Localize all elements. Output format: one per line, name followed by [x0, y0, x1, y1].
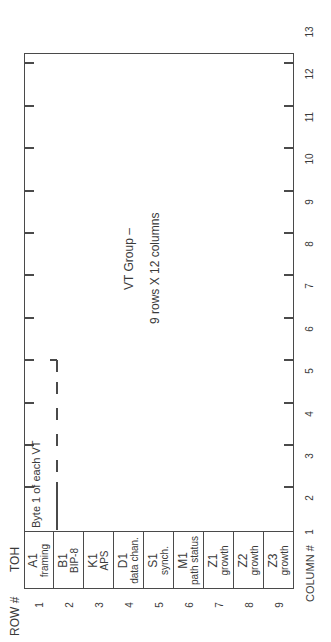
tick-mark	[24, 106, 34, 108]
bracket-dash	[56, 408, 58, 420]
column-number: 11	[304, 107, 315, 127]
tick-mark	[284, 191, 294, 193]
row-number: 3	[94, 598, 105, 612]
toh-cell-z1: Z1 growth	[204, 532, 234, 589]
column-header: COLUMN #	[304, 545, 316, 602]
row-number: 7	[214, 598, 225, 612]
toh-code: S1	[147, 532, 159, 589]
tick-mark	[284, 63, 294, 65]
column-number: 9	[304, 192, 315, 212]
tick-mark	[24, 403, 34, 405]
tick-mark	[284, 106, 294, 108]
bracket-dash	[56, 360, 58, 372]
column-number: 7	[304, 276, 315, 296]
column-number: 5	[304, 361, 315, 381]
toh-desc: data chan.	[130, 532, 140, 589]
tick-mark	[24, 233, 34, 235]
row-number: 6	[184, 598, 195, 612]
row-header: ROW #	[8, 597, 22, 636]
toh-desc: growth	[280, 532, 290, 589]
toh-desc: BIP-8	[70, 532, 80, 589]
tick-mark	[24, 191, 34, 193]
bracket-end	[50, 360, 57, 362]
tick-mark	[24, 360, 34, 362]
toh-desc: growth	[250, 532, 260, 589]
toh-header: TOH	[8, 547, 22, 572]
toh-code: K1	[87, 532, 99, 589]
tick-mark	[284, 318, 294, 320]
toh-code: Z3	[267, 532, 279, 589]
row-number: 4	[124, 598, 135, 612]
toh-cell-a1: A1 framing	[24, 532, 54, 589]
column-number: 2	[304, 488, 315, 508]
vt-group-diagram: ROW # TOH 1 2 3 4 5 6 7 8 9 A1 framing B…	[0, 0, 331, 642]
vt-group-subtitle: 9 rows X 12 columns	[148, 213, 162, 324]
tick-mark	[284, 233, 294, 235]
toh-cell-d1: D1 data chan.	[114, 532, 144, 589]
column-number: 13	[304, 22, 315, 42]
toh-code: Z1	[207, 532, 219, 589]
toh-desc: APS	[100, 532, 110, 589]
column-number: 10	[304, 149, 315, 169]
tick-mark	[284, 148, 294, 150]
toh-column: A1 framing B1 BIP-8 K1 APS D1 data chan.…	[24, 531, 294, 589]
column-number: 12	[304, 64, 315, 84]
byte-1-label: Byte 1 of each VT	[30, 441, 42, 528]
bracket-dash	[56, 434, 58, 446]
tick-mark	[284, 275, 294, 277]
column-number: 4	[304, 404, 315, 424]
tick-mark	[24, 318, 34, 320]
tick-mark	[24, 63, 34, 65]
toh-code: D1	[117, 532, 129, 589]
toh-code: B1	[57, 532, 69, 589]
toh-cell-b1: B1 BIP-8	[54, 532, 84, 589]
toh-desc: growth	[220, 532, 230, 589]
toh-cell-s1: S1 synch.	[144, 532, 174, 589]
row-number: 1	[34, 598, 45, 612]
bracket-dash	[56, 382, 58, 394]
toh-cell-z3: Z3 growth	[264, 532, 294, 589]
row-number: 5	[154, 598, 165, 612]
bracket-dash	[56, 460, 58, 472]
column-number: 6	[304, 319, 315, 339]
column-number: 8	[304, 234, 315, 254]
tick-mark	[24, 275, 34, 277]
tick-mark	[284, 360, 294, 362]
toh-cell-m1: M1 path status	[174, 532, 204, 589]
row-number: 2	[64, 598, 75, 612]
toh-code: Z2	[237, 532, 249, 589]
toh-desc: framing	[40, 532, 50, 589]
toh-code: A1	[27, 532, 39, 589]
column-number: 3	[304, 446, 315, 466]
toh-cell-k1: K1 APS	[84, 532, 114, 589]
toh-cell-z2: Z2 growth	[234, 532, 264, 589]
tick-mark	[284, 487, 294, 489]
tick-mark	[24, 148, 34, 150]
toh-code: M1	[177, 532, 189, 589]
vt-group-title: VT Group –	[122, 228, 136, 290]
column-number: 1	[304, 522, 315, 542]
row-number: 9	[274, 598, 285, 612]
toh-desc: synch.	[160, 532, 170, 589]
bracket-solid	[56, 482, 58, 530]
tick-mark	[284, 403, 294, 405]
toh-desc: path status	[190, 532, 200, 589]
row-number: 8	[244, 598, 255, 612]
tick-mark	[284, 445, 294, 447]
